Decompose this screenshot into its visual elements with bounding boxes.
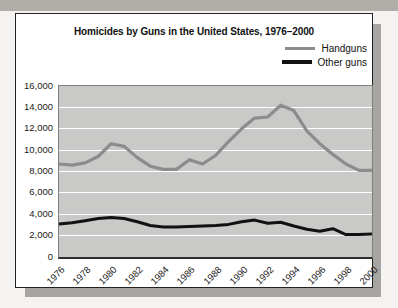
y-axis-tick-label: 14,000 bbox=[16, 101, 53, 112]
y-axis-tick-label: 2,000 bbox=[16, 229, 53, 240]
handguns-line-swatch bbox=[285, 47, 315, 50]
y-axis-tick-label: 4,000 bbox=[16, 208, 53, 219]
legend-item-handguns: Handguns bbox=[282, 41, 367, 55]
legend-item-other-guns: Other guns bbox=[282, 55, 367, 69]
y-axis-tick-label: 16,000 bbox=[16, 80, 53, 91]
chart-card: Homicides by Guns in the United States, … bbox=[15, 13, 373, 288]
y-axis-tick-label: 12,000 bbox=[16, 122, 53, 133]
screenshot-root: Homicides by Guns in the United States, … bbox=[0, 0, 398, 308]
legend: Handguns Other guns bbox=[282, 41, 367, 69]
y-axis-tick-label: 0 bbox=[16, 251, 53, 262]
y-axis-tick-label: 10,000 bbox=[16, 144, 53, 155]
chart-lines bbox=[59, 86, 372, 257]
other-guns-line bbox=[59, 218, 372, 235]
legend-label-handguns: Handguns bbox=[321, 43, 367, 54]
y-axis-tick-label: 8,000 bbox=[16, 165, 53, 176]
plot-area bbox=[58, 85, 373, 259]
page-top-band bbox=[0, 0, 398, 11]
legend-label-other-guns: Other guns bbox=[318, 57, 367, 68]
other-guns-line-swatch bbox=[282, 60, 312, 64]
y-axis-tick-label: 6,000 bbox=[16, 186, 53, 197]
handguns-line bbox=[59, 105, 372, 170]
chart-title: Homicides by Guns in the United States, … bbox=[16, 26, 372, 37]
